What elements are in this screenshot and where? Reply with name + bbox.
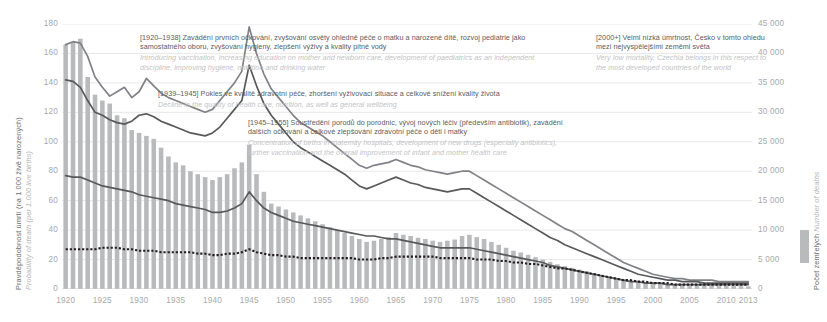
annotation-3-en: Concentration of births in maternity hos…	[248, 138, 578, 156]
x-tick-1965: 1965	[376, 296, 416, 305]
x-tick-1920: 1920	[46, 296, 86, 305]
x-tick-1930: 1930	[119, 296, 159, 305]
annotation-1-range: [1920–1938]	[140, 33, 181, 42]
infant-mortality-chart: Pravděpodobnost úmrtí (na 1 000 živě nar…	[0, 0, 827, 322]
annotation-2-cz: Pokles ve kvalitě zdravotní péče, zhorše…	[201, 89, 500, 98]
x-tick-1985: 1985	[523, 296, 563, 305]
annotation-4-range: [2000+]	[596, 33, 621, 42]
annotation-1945-1955: [1945–1955] Soustředění porodů do porodn…	[248, 118, 578, 157]
annotation-1-cz: Zavádění prvních očkování, zvyšování osv…	[140, 33, 525, 51]
x-tick-1970: 1970	[413, 296, 453, 305]
x-tick-1925: 1925	[82, 296, 122, 305]
annotation-1920-1938: [1920–1938] Zavádění prvních očkování, z…	[140, 33, 540, 72]
x-tick-2013: 2013	[728, 296, 768, 305]
annotation-2-range: [1939–1945]	[158, 89, 199, 98]
x-tick-1945: 1945	[229, 296, 269, 305]
x-tick-1935: 1935	[156, 296, 196, 305]
x-tick-1995: 1995	[596, 296, 636, 305]
annotation-3-range: [1945–1955]	[248, 118, 289, 127]
x-tick-2000: 2000	[633, 296, 673, 305]
x-tick-2005: 2005	[670, 296, 710, 305]
annotation-2000-plus: [2000+] Velmi nízká úmrtnost, Česko v to…	[596, 33, 771, 72]
x-tick-1960: 1960	[339, 296, 379, 305]
annotation-1939-1945: [1939–1945] Pokles ve kvalitě zdravotní …	[158, 89, 518, 109]
x-tick-1980: 1980	[486, 296, 526, 305]
annotation-2-en: Decline in the quality of health care, n…	[158, 100, 518, 109]
x-tick-1975: 1975	[449, 296, 489, 305]
x-tick-1950: 1950	[266, 296, 306, 305]
annotation-1-en: Introducing vaccination, increasing educ…	[140, 53, 540, 71]
annotation-4-en: Very low mortality, Czechia belongs in t…	[596, 53, 771, 71]
x-tick-1955: 1955	[303, 296, 343, 305]
annotation-3-cz: Soustředění porodů do porodnic, vývoj no…	[248, 118, 563, 136]
x-tick-1940: 1940	[192, 296, 232, 305]
annotation-4-cz: Velmi nízká úmrtnost, Česko v tomto ohle…	[596, 33, 765, 51]
x-tick-1990: 1990	[560, 296, 600, 305]
